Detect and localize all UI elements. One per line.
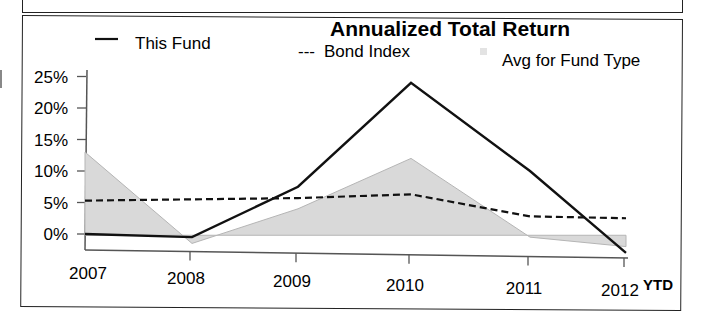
legend-dash-marker: ---	[298, 42, 315, 61]
x-tick-label: 2012	[601, 281, 639, 300]
x-tick-label: 2008	[167, 269, 205, 288]
legend-shaded-square-icon	[480, 48, 487, 55]
y-tick-label: 15%	[34, 131, 68, 150]
y-axis: 25%20%15%10%5%0%	[34, 68, 87, 251]
x-axis: 200720082009201020112012	[69, 250, 639, 300]
annualized-return-chart: Annualized Total Return This Fund --- Bo…	[0, 0, 701, 321]
x-tick-label: 2007	[69, 264, 107, 283]
y-tick-label: 10%	[34, 162, 68, 181]
ytd-label: YTD	[643, 276, 673, 293]
legend-bond-index: Bond Index	[324, 42, 411, 61]
x-tick-label: 2009	[273, 272, 311, 291]
y-tick-label: 5%	[43, 194, 68, 213]
y-tick-label: 25%	[34, 68, 68, 87]
y-tick-label: 20%	[34, 99, 68, 118]
y-tick-label: 0%	[43, 225, 68, 244]
chart-title: Annualized Total Return	[330, 17, 570, 40]
legend-this-fund: This Fund	[135, 34, 211, 53]
legend-avg-fund-type: Avg for Fund Type	[502, 51, 640, 70]
x-tick-label: 2010	[386, 276, 424, 295]
x-tick-label: 2011	[506, 279, 543, 298]
plot-area	[85, 83, 626, 253]
